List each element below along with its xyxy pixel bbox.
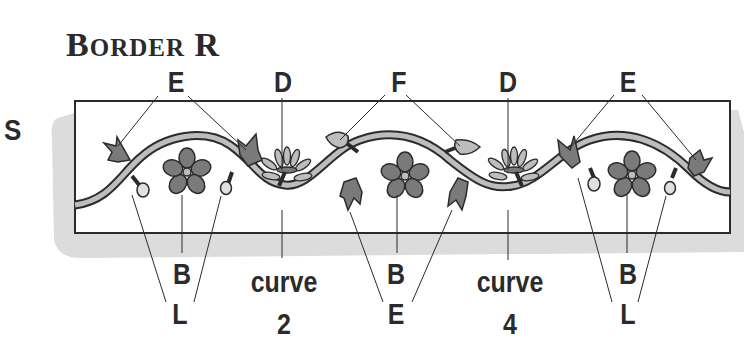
berry-3 xyxy=(588,177,600,191)
label-l-right: L xyxy=(620,300,635,329)
berry-4 xyxy=(665,182,676,195)
label-e-bottom: E xyxy=(388,300,405,329)
label-l-left: L xyxy=(172,300,187,329)
label-b-center: B xyxy=(387,260,405,289)
berry-1 xyxy=(137,183,149,197)
label-curve-2: curve xyxy=(251,268,318,297)
label-curve-4: curve xyxy=(477,268,544,297)
label-curve-2-number: 2 xyxy=(277,310,291,339)
label-b-left: B xyxy=(173,260,191,289)
label-e-top-left: E xyxy=(168,68,185,97)
label-curve-4-number: 4 xyxy=(503,310,517,339)
label-f-top: F xyxy=(391,68,406,97)
label-e-top-right: E xyxy=(620,68,637,97)
label-d-top-left: D xyxy=(274,68,292,97)
berry-2 xyxy=(221,182,232,195)
label-b-right: B xyxy=(619,260,637,289)
label-d-top-right: D xyxy=(499,68,517,97)
